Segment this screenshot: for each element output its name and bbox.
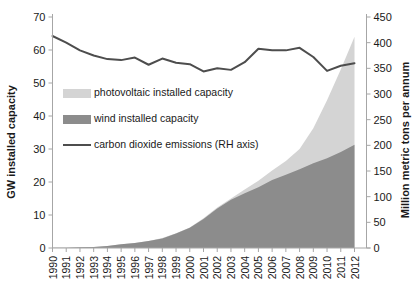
right-axis-tick-label: 200 [374,139,392,151]
x-axis-tick-label: 2012 [349,256,361,280]
x-axis-tick-label: 2008 [294,256,306,280]
x-axis-tick-label: 2010 [321,256,333,280]
x-axis-tick-label: 2004 [239,256,251,280]
right-axis-tick-label: 0 [374,242,380,254]
x-axis-tick-label: 1999 [170,256,182,280]
x-axis-tick-label: 2002 [211,256,223,280]
legend-label: photovoltaic installed capacity [94,86,234,98]
x-axis-tick-label: 2000 [184,256,196,280]
x-axis-tick-label: 1991 [60,256,72,280]
x-axis-tick-label: 1992 [74,256,86,280]
x-axis-tick-label: 1995 [115,256,127,280]
co2-emissions-line [53,36,355,71]
right-axis-title: Million metric tons per annum [399,62,411,219]
left-axis-tick-label: 20 [33,176,45,188]
x-axis-tick-label: 2003 [225,256,237,280]
legend-label: carbon dioxide emissions (RH axis) [94,138,259,150]
legend-label: wind installed capacity [93,112,199,124]
right-axis: 050100150200250300350400450 [367,11,392,254]
legend-swatch [63,115,91,124]
x-axis-tick-label: 1997 [143,256,155,280]
left-axis-tick-label: 0 [39,242,45,254]
left-axis-tick-label: 40 [33,110,45,122]
x-axis-tick-label: 2009 [307,256,319,280]
x-axis-tick-label: 1993 [88,256,100,280]
legend-swatch [63,89,91,98]
bottom-axis: 1990199119921993199419951996199719981999… [47,248,371,279]
left-axis: 010203040506070 [33,11,52,254]
right-axis-tick-label: 400 [374,37,392,49]
chart-container: 010203040506070 050100150200250300350400… [0,0,418,296]
right-axis-tick-label: 100 [374,191,392,203]
x-axis-tick-label: 2011 [335,256,347,279]
co2-line-path [53,36,355,71]
right-axis-tick-label: 300 [374,88,392,100]
left-axis-tick-label: 60 [33,44,45,56]
chart-canvas: 010203040506070 050100150200250300350400… [0,0,418,296]
x-axis-tick-label: 1994 [101,256,113,280]
x-axis-tick-label: 2001 [198,256,210,280]
x-axis-tick-label: 2007 [280,256,292,280]
left-axis-tick-label: 50 [33,77,45,89]
x-axis-tick-label: 2006 [266,256,278,280]
right-axis-tick-label: 450 [374,11,392,23]
right-axis-tick-label: 250 [374,114,392,126]
right-axis-tick-label: 150 [374,165,392,177]
right-axis-tick-label: 50 [374,216,386,228]
chart-legend: photovoltaic installed capacitywind inst… [63,86,259,150]
right-axis-tick-label: 350 [374,62,392,74]
x-axis-tick-label: 1990 [47,256,59,280]
left-axis-tick-label: 70 [33,11,45,23]
left-axis-tick-label: 10 [33,209,45,221]
left-axis-tick-label: 30 [33,143,45,155]
x-axis-tick-label: 1998 [156,256,168,280]
x-axis-tick-label: 2005 [252,256,264,280]
left-axis-title: GW installed capacity [5,84,17,199]
x-axis-tick-label: 1996 [129,256,141,280]
